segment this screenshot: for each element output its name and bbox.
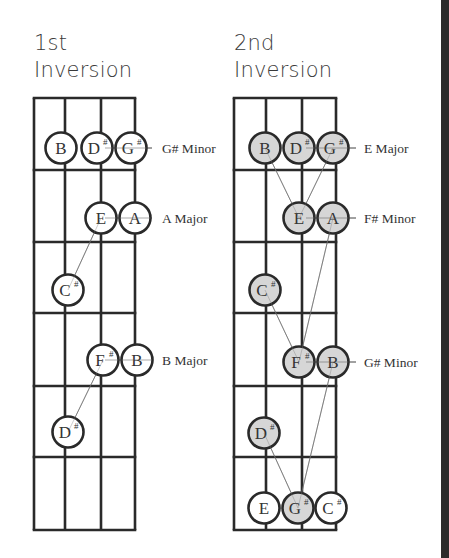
chord-label: A Major: [162, 211, 208, 226]
svg-text:#: #: [305, 351, 310, 361]
svg-text:B: B: [55, 139, 66, 158]
svg-text:C: C: [256, 281, 267, 300]
svg-text:#: #: [270, 422, 275, 432]
svg-text:G: G: [122, 139, 134, 158]
chord-label: G# Minor: [364, 355, 418, 370]
chord-label: E Major: [364, 141, 409, 156]
svg-text:#: #: [339, 137, 344, 147]
fretboard-diagrams: G# MinorA MajorB MajorBD#G#EAC#F#BD#E Ma…: [0, 0, 449, 558]
svg-text:#: #: [304, 497, 309, 507]
chord-label: B Major: [162, 353, 208, 368]
note-E: E: [249, 493, 280, 524]
svg-text:#: #: [337, 497, 342, 507]
svg-text:#: #: [271, 279, 276, 289]
svg-text:#: #: [305, 137, 310, 147]
svg-text:#: #: [74, 279, 79, 289]
svg-text:G: G: [324, 139, 336, 158]
svg-text:C: C: [59, 281, 70, 300]
svg-text:C: C: [322, 499, 333, 518]
svg-text:B: B: [131, 351, 142, 370]
fretboard-2: E MajorF# MinorG# MinorBD#G#EAC#F#BD#EG#…: [233, 98, 418, 530]
svg-text:F: F: [95, 351, 104, 370]
svg-text:D: D: [255, 424, 267, 443]
svg-text:D: D: [59, 423, 71, 442]
chord-label: G# Minor: [162, 141, 216, 156]
svg-text:D: D: [88, 139, 100, 158]
note-B: B: [46, 133, 77, 164]
svg-text:A: A: [327, 209, 340, 228]
chord-label: F# Minor: [364, 211, 416, 226]
fretboard-1: G# MinorA MajorB MajorBD#G#EAC#F#BD#: [33, 98, 216, 530]
svg-text:#: #: [74, 421, 79, 431]
svg-text:#: #: [109, 349, 114, 359]
svg-text:#: #: [103, 137, 108, 147]
svg-text:E: E: [294, 209, 304, 228]
svg-text:D: D: [290, 139, 302, 158]
svg-text:#: #: [137, 137, 142, 147]
svg-text:A: A: [129, 209, 142, 228]
svg-text:E: E: [259, 499, 269, 518]
note-C-sharp: C#: [316, 493, 347, 524]
